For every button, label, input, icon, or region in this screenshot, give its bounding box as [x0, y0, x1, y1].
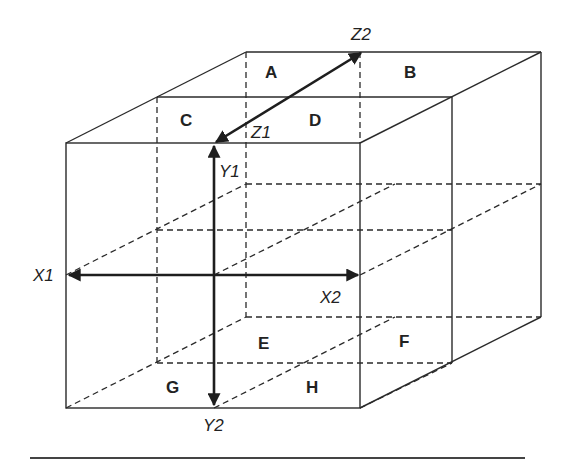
region-label-d: D	[309, 111, 321, 130]
octant-cube-diagram: A B C D E F G H Z2 Z1 Y1 X1 X2 Y2	[0, 0, 576, 462]
region-label-f: F	[399, 332, 409, 351]
axis-label-z1: Z1	[250, 123, 271, 142]
region-label-a: A	[265, 63, 277, 82]
axis-label-z2: Z2	[350, 25, 371, 44]
axis-label-y1: Y1	[219, 162, 240, 181]
axis-label-y2: Y2	[203, 416, 224, 435]
axis-label-x2: X2	[319, 288, 341, 307]
region-label-g: G	[166, 378, 179, 397]
axes	[69, 53, 361, 405]
region-label-e: E	[258, 334, 269, 353]
region-label-b: B	[404, 63, 416, 82]
region-label-c: C	[180, 111, 192, 130]
axis-label-x1: X1	[32, 266, 54, 285]
region-label-h: H	[306, 378, 318, 397]
hidden-edges	[66, 52, 541, 408]
